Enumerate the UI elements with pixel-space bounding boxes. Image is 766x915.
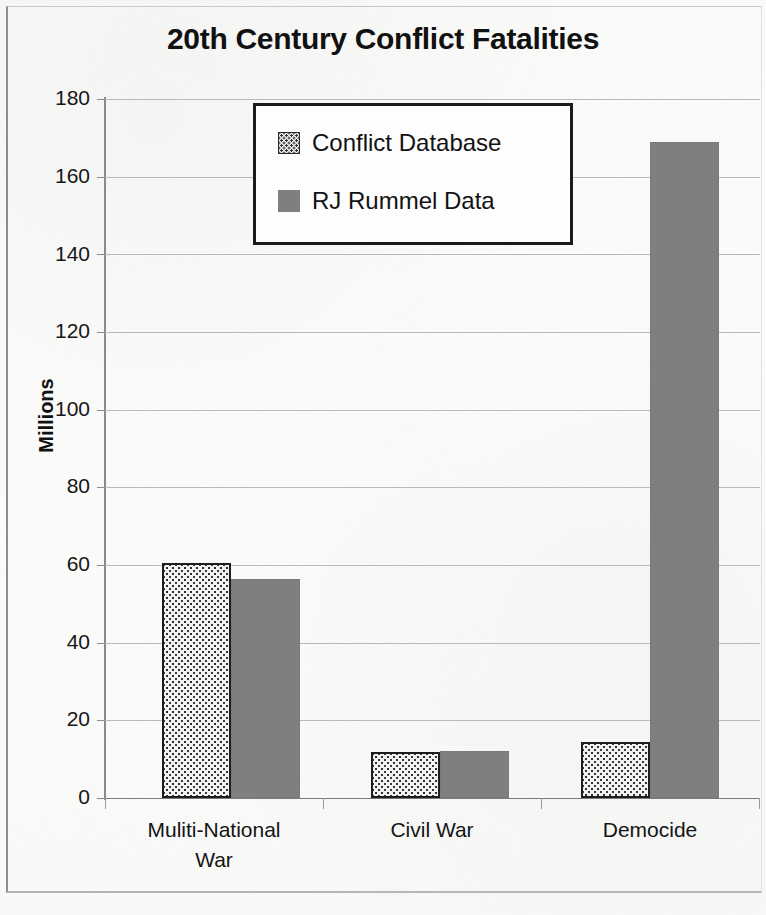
bar-rj-rummel-data-muliti-national-war [231, 579, 300, 798]
y-tick-label-120: 120 [18, 319, 90, 343]
gridline-0-baseline [105, 798, 760, 799]
x-category-line-1: Democide [541, 815, 759, 845]
y-tick-label-20: 20 [18, 707, 90, 731]
y-tick-label-60: 60 [18, 552, 90, 576]
bar-rj-rummel-data-democide [650, 142, 719, 798]
legend-swatch-icon-rj-rummel-data [278, 190, 300, 212]
x-tick-group-1 [323, 798, 324, 809]
bar-rj-rummel-data-civil-war [440, 751, 509, 798]
y-tick-label-180: 180 [18, 86, 90, 110]
x-category-label-civil-war: Civil War [323, 815, 541, 845]
y-axis-title: Millions [35, 356, 58, 476]
gridline-180 [105, 99, 760, 100]
y-tick-label-160: 160 [18, 164, 90, 188]
legend-entry-conflict-database: Conflict Database [278, 126, 501, 160]
x-category-label-democide: Democide [541, 815, 759, 845]
x-tick-group-2 [541, 798, 542, 809]
legend-swatch-icon-conflict-database [278, 132, 300, 154]
y-tick-label-40: 40 [18, 630, 90, 654]
x-category-line-2: War [105, 845, 323, 875]
bar-conflict-database-democide [581, 742, 650, 798]
bar-conflict-database-muliti-national-war [162, 563, 231, 798]
legend-label-conflict-database: Conflict Database [312, 129, 501, 157]
y-tick-label-140: 140 [18, 242, 90, 266]
x-tick-left-edge [105, 798, 106, 809]
y-tick-label-80: 80 [18, 474, 90, 498]
y-tick-label-0: 0 [18, 785, 90, 809]
bar-conflict-database-civil-war [371, 752, 440, 798]
x-tick-right-edge [759, 798, 760, 809]
legend-entry-rj-rummel-data: RJ Rummel Data [278, 184, 495, 218]
legend-label-rj-rummel-data: RJ Rummel Data [312, 187, 495, 215]
x-category-line-1: Muliti-National [105, 815, 323, 845]
x-category-label-muliti-national-war: Muliti-National War [105, 815, 323, 875]
chart-legend: Conflict Database RJ Rummel Data [253, 103, 573, 245]
x-category-line-1: Civil War [323, 815, 541, 845]
chart-title: 20th Century Conflict Fatalities [0, 22, 766, 56]
